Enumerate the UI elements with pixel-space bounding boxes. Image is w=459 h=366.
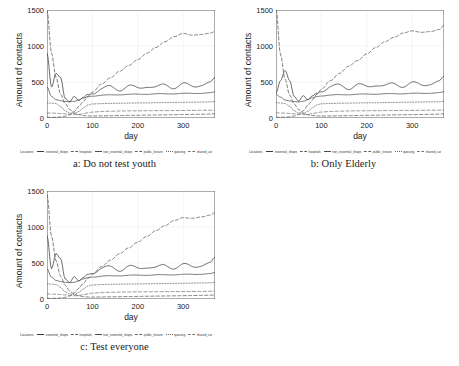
- legend-item-label: queuing: [174, 150, 185, 154]
- legend-item-label: public_leisure: [144, 150, 163, 154]
- series-line-shared_car: [276, 110, 444, 115]
- x-tick-0: 0: [45, 121, 49, 130]
- axes-b: [276, 10, 444, 118]
- legend-key-icon: [300, 151, 307, 152]
- y-tick-1500: 1500: [27, 187, 44, 196]
- x-axis-label-a: day: [47, 131, 215, 141]
- caption-c: c: Test everyone: [0, 341, 229, 352]
- panel-a: Amount of contacts 050010001500 01002003…: [0, 0, 229, 180]
- legend-title: Locations: [20, 333, 33, 337]
- series-line-essential_shops: [276, 70, 444, 101]
- legend-c: Locationsessential_shopshospitalsnon_ess…: [20, 330, 220, 339]
- caption-b: b: Only Elderly: [229, 158, 458, 169]
- series-line-shared_car: [47, 110, 215, 115]
- series-line-non_essential_shops: [276, 92, 444, 102]
- legend-item-label: shared_car: [197, 333, 212, 337]
- legend-key-icon: [166, 151, 173, 152]
- legend-key-icon: [135, 334, 142, 335]
- series-line-public_leisure: [47, 213, 215, 299]
- legend-key-icon: [417, 151, 424, 152]
- legend-item-label: queuing: [403, 150, 414, 154]
- series-line-essential_shops: [47, 53, 215, 102]
- y-tick-500: 500: [260, 78, 273, 87]
- legend-a: Locationsessential_shopshospitalsnon_ess…: [20, 147, 220, 156]
- legend-title: Locations: [20, 150, 33, 154]
- legend-key-icon: [95, 334, 102, 335]
- legend-key-icon: [188, 334, 195, 335]
- legend-item-label: essential_shops: [46, 333, 68, 337]
- series-line-hospitals: [47, 195, 215, 298]
- y-tick-0: 0: [269, 114, 273, 123]
- legend-item-shared_car: shared_car: [188, 150, 212, 154]
- x-tick-300: 300: [406, 121, 419, 130]
- series-line-public_leisure: [276, 25, 444, 117]
- legend-key-icon: [37, 151, 44, 152]
- legend-key-icon: [135, 151, 142, 152]
- panel-b: Amount of contacts 050010001500 01002003…: [229, 0, 458, 180]
- legend-item-essential_shops: essential_shops: [37, 333, 68, 337]
- x-tick-100: 100: [315, 121, 328, 130]
- series-line-non_essential_shops: [47, 87, 215, 102]
- caption-a: a: Do not test youth: [0, 158, 229, 169]
- legend-item-queuing: queuing: [166, 150, 186, 154]
- plot-area-b: Amount of contacts 050010001500 01002003…: [229, 0, 458, 145]
- x-tick-300: 300: [177, 302, 190, 311]
- series-line-queuing: [47, 101, 215, 113]
- y-tick-labels-b: 050010001500: [251, 0, 273, 118]
- x-axis-label-b: day: [276, 131, 444, 141]
- legend-item-label: hospitals: [79, 150, 91, 154]
- x-tick-200: 200: [361, 121, 374, 130]
- series-line-hospitals: [47, 10, 215, 116]
- panel-c: Amount of contacts 050010001500 01002003…: [0, 181, 229, 361]
- y-tick-labels-c: 050010001500: [22, 181, 44, 299]
- legend-item-label: non_essential_shops: [103, 333, 132, 337]
- legend-key-icon: [266, 151, 273, 152]
- legend-key-icon: [71, 334, 78, 335]
- legend-item-hospitals: hospitals: [71, 150, 92, 154]
- legend-item-label: non_essential_shops: [332, 150, 361, 154]
- legend-key-icon: [395, 151, 402, 152]
- legend-item-public_leisure: public_leisure: [135, 333, 162, 337]
- legend-item-label: essential_shops: [46, 150, 68, 154]
- legend-item-public_leisure: public_leisure: [135, 150, 162, 154]
- legend-item-label: public_leisure: [373, 150, 392, 154]
- y-tick-0: 0: [40, 295, 44, 304]
- y-tick-0: 0: [40, 114, 44, 123]
- series-line-queuing: [276, 101, 444, 113]
- legend-item-label: public_leisure: [144, 333, 163, 337]
- legend-item-hospitals: hospitals: [71, 333, 92, 337]
- legend-item-non_essential_shops: non_essential_shops: [95, 333, 133, 337]
- y-tick-1500: 1500: [256, 6, 273, 15]
- series-line-hospitals: [276, 10, 444, 116]
- x-tick-100: 100: [86, 302, 99, 311]
- legend-title: Locations: [249, 150, 262, 154]
- axes-a: [47, 10, 215, 118]
- x-tick-0: 0: [45, 302, 49, 311]
- legend-key-icon: [166, 334, 173, 335]
- legend-key-icon: [364, 151, 371, 152]
- legend-item-hospitals: hospitals: [300, 150, 321, 154]
- series-line-non_essential_shops: [47, 269, 215, 283]
- legend-key-icon: [71, 151, 78, 152]
- legend-b: Locationsessential_shopshospitalsnon_ess…: [249, 147, 449, 156]
- y-tick-1000: 1000: [27, 223, 44, 232]
- legend-item-label: hospitals: [79, 333, 91, 337]
- legend-item-public_leisure: public_leisure: [364, 150, 391, 154]
- y-tick-500: 500: [31, 78, 44, 87]
- legend-item-label: essential_shops: [275, 150, 297, 154]
- x-tick-200: 200: [132, 121, 145, 130]
- x-tick-0: 0: [274, 121, 278, 130]
- x-tick-100: 100: [86, 121, 99, 130]
- plot-area-c: Amount of contacts 050010001500 01002003…: [0, 181, 229, 326]
- series-line-shared_car: [47, 291, 215, 296]
- legend-item-non_essential_shops: non_essential_shops: [324, 150, 362, 154]
- legend-item-shared_car: shared_car: [188, 333, 212, 337]
- legend-item-label: non_essential_shops: [103, 150, 132, 154]
- legend-item-label: shared_car: [426, 150, 441, 154]
- legend-item-queuing: queuing: [395, 150, 415, 154]
- legend-item-non_essential_shops: non_essential_shops: [95, 150, 133, 154]
- plot-area-a: Amount of contacts 050010001500 01002003…: [0, 0, 229, 145]
- legend-item-label: hospitals: [308, 150, 320, 154]
- legend-item-queuing: queuing: [166, 333, 186, 337]
- x-axis-label-c: day: [47, 312, 215, 322]
